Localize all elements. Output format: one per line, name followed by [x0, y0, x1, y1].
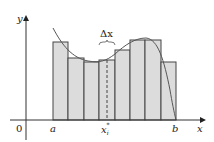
y-axis-label: y: [16, 13, 23, 24]
a-label: a: [50, 123, 56, 134]
riemann-sum-diagram: Δx y x 0 a b xi*: [0, 0, 214, 142]
rectangle-2: [68, 58, 84, 120]
rectangle-7: [145, 40, 161, 120]
x-axis-label: x: [197, 123, 203, 134]
origin-label: 0: [16, 123, 22, 134]
rectangle-1: [53, 42, 68, 120]
delta-x-label: Δx: [100, 28, 113, 39]
rectangle-6: [130, 40, 145, 120]
rectangle-5: [115, 50, 130, 120]
y-axis-arrow-icon: [23, 15, 29, 21]
rectangles: [53, 40, 176, 120]
rectangle-3: [84, 62, 99, 120]
delta-x-brace: [99, 40, 115, 45]
xi-star-label: xi*: [101, 121, 110, 136]
b-label: b: [172, 123, 178, 134]
